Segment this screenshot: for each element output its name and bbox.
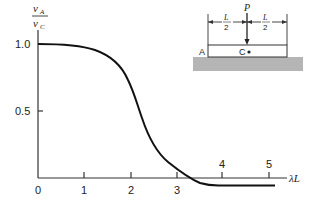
left-half-numerator: L bbox=[223, 13, 229, 22]
y-axis-label: v A v C bbox=[32, 2, 48, 31]
load-label: P bbox=[243, 2, 250, 13]
x-tick-label-4: 4 bbox=[219, 158, 225, 170]
x-tick-label-2: 2 bbox=[128, 184, 134, 196]
right-half-numerator: L bbox=[262, 13, 268, 22]
end-a-label: A bbox=[199, 47, 205, 57]
y-label-denominator-sub: C bbox=[40, 23, 45, 31]
left-half-denominator: 2 bbox=[224, 23, 229, 32]
arrowhead-left bbox=[208, 20, 213, 24]
x-tick-label-3: 3 bbox=[174, 184, 180, 196]
x-tick-label-5: 5 bbox=[266, 158, 272, 170]
y-tick-label-1.0: 1.0 bbox=[15, 38, 30, 50]
y-tick-label-0.5: 0.5 bbox=[15, 105, 30, 117]
center-point-dot bbox=[247, 50, 250, 53]
load-arrowhead bbox=[245, 39, 250, 45]
right-half-denominator: 2 bbox=[263, 23, 268, 32]
arrowhead-right bbox=[282, 20, 287, 24]
beam-inset: L 2 L 2 P A C bbox=[193, 2, 303, 71]
x-tick-label-0: 0 bbox=[35, 184, 41, 196]
y-label-denominator: v bbox=[33, 17, 38, 29]
x-tick-label-1: 1 bbox=[81, 184, 87, 196]
x-axis-label: λL bbox=[288, 172, 300, 184]
y-label-numerator-sub: A bbox=[39, 8, 45, 16]
elastic-foundation bbox=[193, 57, 303, 71]
beam bbox=[208, 45, 287, 57]
center-c-label: C bbox=[239, 47, 246, 57]
figure-canvas: 1.0 0.5 0 1 2 3 4 5 λL v A v C L bbox=[0, 0, 317, 202]
y-label-numerator: v bbox=[33, 2, 38, 14]
